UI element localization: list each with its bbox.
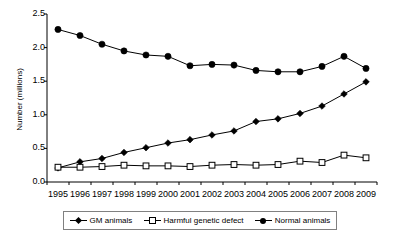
data-point (231, 128, 238, 135)
data-point (341, 91, 348, 98)
data-point (143, 163, 149, 169)
data-point (121, 162, 127, 168)
data-point (253, 162, 259, 168)
series-normal-animals (55, 26, 369, 75)
data-point (209, 162, 215, 168)
data-point (143, 144, 150, 151)
x-tick-label: 2009 (352, 190, 380, 199)
data-point (297, 69, 303, 75)
data-point (275, 162, 281, 168)
data-point (165, 163, 171, 169)
legend-label: GM animals (90, 216, 133, 225)
data-point (341, 152, 347, 158)
data-point (363, 79, 370, 86)
data-point (99, 41, 105, 47)
data-point (77, 164, 83, 170)
data-point (275, 116, 282, 123)
legend-marker-icon (255, 216, 272, 225)
data-point (165, 53, 171, 59)
legend-marker-icon (70, 216, 87, 225)
data-point (253, 118, 260, 125)
data-point (99, 155, 106, 162)
data-point (363, 65, 369, 71)
plot-area (0, 0, 398, 241)
data-point (121, 149, 128, 156)
data-point (55, 26, 61, 32)
chart-legend: GM animalsHarmful genetic defectNormal a… (63, 211, 337, 230)
legend-label: Harmful genetic defect (164, 216, 244, 225)
data-point (187, 63, 193, 69)
data-point (319, 160, 325, 166)
data-point (297, 158, 303, 164)
data-point (275, 69, 281, 75)
data-point (165, 140, 172, 147)
data-point (121, 48, 127, 54)
data-point (231, 62, 237, 68)
data-point (99, 164, 105, 170)
data-point (297, 110, 304, 117)
data-point (187, 164, 193, 170)
data-point (187, 136, 194, 143)
legend-entry[interactable]: GM animals (70, 216, 133, 225)
legend-entry[interactable]: Harmful genetic defect (144, 216, 244, 225)
series-gm-animals (55, 79, 370, 172)
chart-container: Number (millions) 0.00.51.01.52.02.5 199… (0, 0, 398, 241)
data-point (209, 132, 216, 139)
legend-marker-icon (144, 216, 161, 225)
data-point (77, 32, 83, 38)
data-point (319, 63, 325, 69)
data-point (363, 155, 369, 161)
data-point (209, 61, 215, 67)
data-point (55, 164, 61, 170)
data-point (231, 162, 237, 168)
legend-label: Normal animals (275, 216, 331, 225)
data-point (253, 67, 259, 73)
data-point (319, 103, 326, 110)
data-point (341, 53, 347, 59)
data-point (143, 52, 149, 58)
legend-entry[interactable]: Normal animals (255, 216, 331, 225)
